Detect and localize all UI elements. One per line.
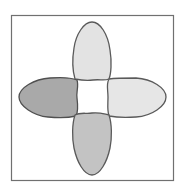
diagram-canvas [0,0,182,185]
